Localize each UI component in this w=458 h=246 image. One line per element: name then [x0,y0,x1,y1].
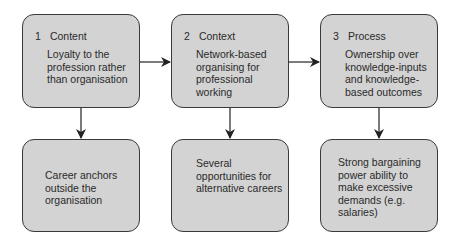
context-box: 2 Context Network-based organising for p… [171,14,289,108]
content-title: Content [50,30,87,42]
process-outcome-box: Strong bargaining power ability to make … [320,139,438,232]
process-outcome-text: Strong bargaining power ability to make … [338,156,436,219]
process-heading: 3 Process [333,30,386,42]
content-box: 1 Content Loyalty to the profession rath… [22,14,140,108]
process-description: Ownership over knowledge-inputs and know… [345,48,437,98]
content-heading: 1 Content [35,30,87,42]
content-outcome-box: Career anchors outside the organisation [22,139,140,232]
content-outcome-text: Career anchors outside the organisation [45,169,137,207]
process-title: Process [348,30,386,42]
context-description: Network-based organising for professiona… [196,48,288,98]
context-number: 2 [184,30,196,42]
context-outcome-box: Several opportunities for alternative ca… [171,139,289,232]
context-outcome-text: Several opportunities for alternative ca… [196,157,288,195]
context-heading: 2 Context [184,30,235,42]
process-box: 3 Process Ownership over knowledge-input… [320,14,438,108]
process-number: 3 [333,30,345,42]
content-description: Loyalty to the profession rather than or… [47,48,139,86]
content-number: 1 [35,30,47,42]
context-title: Context [199,30,235,42]
